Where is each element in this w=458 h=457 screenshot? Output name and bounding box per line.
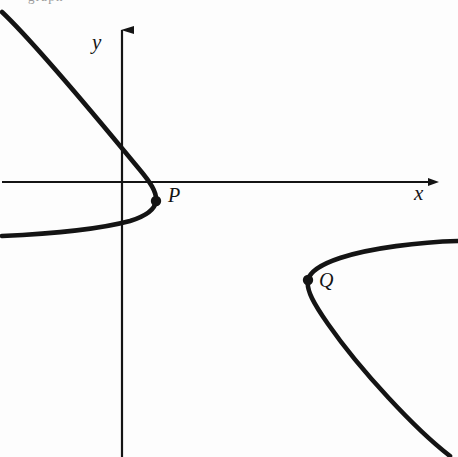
curve-left-branch — [2, 12, 156, 236]
x-axis-label: x — [414, 183, 423, 204]
point-marker-p — [151, 196, 161, 206]
point-label-q: Q — [319, 270, 333, 290]
point-marker-q — [303, 275, 313, 285]
graph-figure: graph y x P Q — [0, 0, 458, 457]
graph-canvas — [0, 0, 458, 457]
point-label-p: P — [168, 185, 180, 205]
y-axis-label: y — [92, 32, 101, 53]
